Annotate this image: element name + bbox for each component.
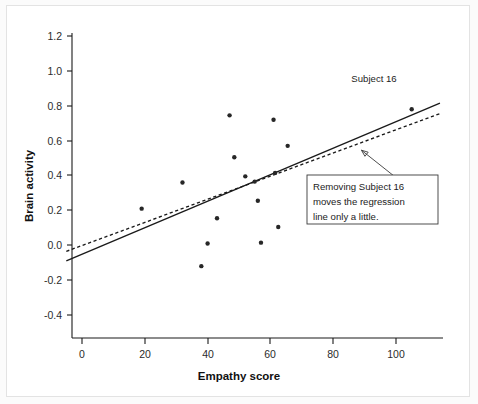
y-axis-tick-labels: 1.2 1.0 0.8 0.6 0.4 0.2 0.0 -0.2 -0.4 xyxy=(44,30,62,321)
x-tick-label: 80 xyxy=(327,348,339,360)
x-axis-title: Empathy score xyxy=(198,370,280,382)
data-point xyxy=(215,216,219,220)
x-tick-label: 0 xyxy=(79,348,85,360)
data-point xyxy=(256,199,260,203)
x-tick-label: 100 xyxy=(387,348,405,360)
callout-line-3: line only a little. xyxy=(313,211,379,222)
data-point xyxy=(199,264,203,268)
y-axis-title: Brain activity xyxy=(23,149,35,222)
data-point xyxy=(243,174,247,178)
callout-line-1: Removing Subject 16 xyxy=(313,181,404,192)
data-point xyxy=(205,241,209,245)
y-tick-label: 0.0 xyxy=(47,239,62,251)
x-tick-label: 40 xyxy=(202,348,214,360)
y-tick-label: -0.4 xyxy=(44,309,62,321)
y-tick-label: 0.2 xyxy=(47,204,62,216)
data-point xyxy=(273,171,277,175)
data-point xyxy=(285,144,289,148)
x-axis-ticks xyxy=(82,338,396,344)
data-point xyxy=(259,240,263,244)
y-tick-label: -0.2 xyxy=(44,274,62,286)
scatter-plot: 1.2 1.0 0.8 0.6 0.4 0.2 0.0 -0.2 -0.4 xyxy=(0,0,478,404)
x-axis-tick-labels: 0 20 40 60 80 100 xyxy=(79,348,405,360)
data-point xyxy=(232,155,236,159)
y-axis-ticks xyxy=(67,36,72,315)
y-tick-label: 1.0 xyxy=(47,65,62,77)
x-tick-label: 60 xyxy=(264,348,276,360)
subject-16-label: Subject 16 xyxy=(351,73,396,84)
y-tick-label: 0.6 xyxy=(47,135,62,147)
data-point xyxy=(253,179,257,183)
y-tick-label: 0.4 xyxy=(47,169,62,181)
x-tick-label: 20 xyxy=(139,348,151,360)
data-point xyxy=(227,113,231,117)
y-tick-label: 1.2 xyxy=(47,30,62,42)
figure-page: 1.2 1.0 0.8 0.6 0.4 0.2 0.0 -0.2 -0.4 xyxy=(0,0,478,404)
data-point xyxy=(276,225,280,229)
callout-line-2: moves the regression xyxy=(313,196,405,207)
data-point xyxy=(410,107,414,111)
data-point xyxy=(139,206,143,210)
data-point xyxy=(180,180,184,184)
plot-svg: 1.2 1.0 0.8 0.6 0.4 0.2 0.0 -0.2 -0.4 xyxy=(0,0,478,404)
data-point xyxy=(271,118,275,122)
y-tick-label: 0.8 xyxy=(47,100,62,112)
